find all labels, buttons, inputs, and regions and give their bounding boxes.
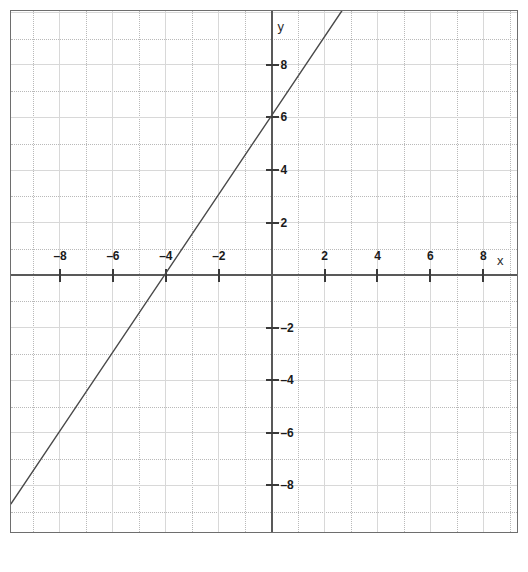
plot-area: –8–6–4–224688642–2–4–6–8 y x [10,10,518,533]
gridline-major-horizontal [11,485,517,486]
gridline-major-horizontal [11,432,517,433]
x-tick-label: –8 [53,249,66,263]
gridline-major-vertical [430,11,431,532]
gridline-major-horizontal [11,327,517,328]
major-gridlines [11,11,517,532]
gridline-minor-vertical [457,11,458,532]
gridline-major-horizontal [11,222,517,223]
gridline-minor-horizontal [11,249,517,250]
gridline-major-vertical [112,11,113,532]
gridline-minor-horizontal [11,512,517,513]
x-tick-label: –2 [212,249,225,263]
gridline-major-vertical [377,11,378,532]
gridline-minor-horizontal [11,144,517,145]
x-axis-line [11,274,517,276]
x-tick-label: 6 [427,249,433,263]
y-tick-label: –2 [281,321,294,335]
y-tick-label: 6 [281,110,287,124]
gridline-major-horizontal [11,117,517,118]
coordinate-graph: –8–6–4–224688642–2–4–6–8 y x [0,0,528,572]
gridline-minor-horizontal [11,39,517,40]
gridline-minor-vertical [298,11,299,532]
x-tick-label: –4 [159,249,172,263]
gridline-minor-horizontal [11,407,517,408]
y-tick-label: –6 [281,426,294,440]
gridline-minor-horizontal [11,196,517,197]
gridline-major-horizontal [11,64,517,65]
axis-tick-labels: –8–6–4–224688642–2–4–6–8 [11,11,517,532]
gridline-major-vertical [483,11,484,532]
x-tick-label: 8 [480,249,486,263]
gridline-major-vertical [165,11,166,532]
gridline-major-vertical [324,11,325,532]
x-axis-label: x [497,253,504,268]
line-series [11,11,517,532]
x-tick-label: 4 [374,249,380,263]
gridline-minor-horizontal [11,354,517,355]
gridline-major-vertical [218,11,219,532]
y-tick-label: –4 [281,373,294,387]
gridline-minor-horizontal [11,91,517,92]
gridline-major-vertical [59,11,60,532]
gridline-minor-vertical [351,11,352,532]
y-tick-label: 4 [281,163,287,177]
x-tick-label: 2 [321,249,327,263]
gridline-minor-horizontal [11,459,517,460]
gridline-minor-vertical [139,11,140,532]
gridline-minor-horizontal [11,301,517,302]
minor-gridlines [11,11,517,532]
gridline-minor-vertical [192,11,193,532]
gridline-minor-vertical [33,11,34,532]
gridline-major-horizontal [11,12,517,13]
gridline-minor-vertical [86,11,87,532]
y-tick-label: 8 [281,58,287,72]
y-tick-label: –8 [281,478,294,492]
gridline-major-horizontal [11,380,517,381]
gridline-minor-vertical [245,11,246,532]
gridline-minor-vertical [510,11,511,532]
axis-ticks [11,11,517,532]
x-tick-label: –6 [106,249,119,263]
gridline-major-horizontal [11,170,517,171]
y-axis-label: y [278,19,285,34]
y-axis-line [271,11,273,532]
gridline-minor-vertical [404,11,405,532]
y-tick-label: 2 [281,216,287,230]
